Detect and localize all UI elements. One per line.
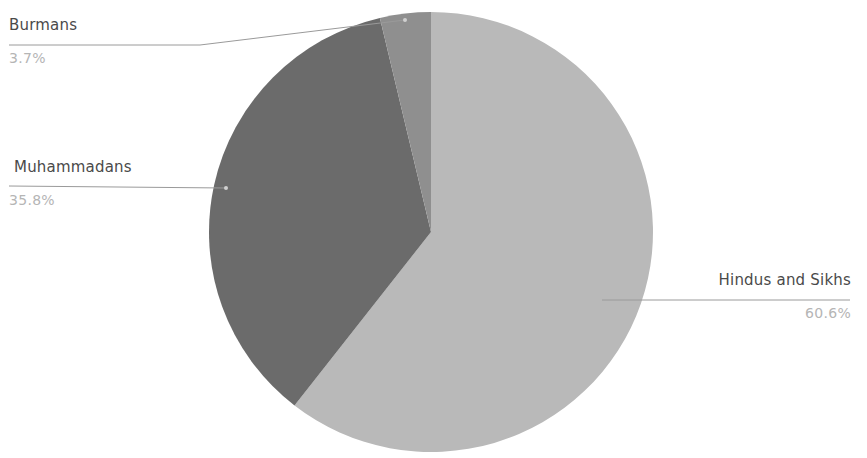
label-muhammadans-name: Muhammadans [14,158,132,176]
pie-chart [0,0,867,458]
leader-burmans-dot [403,18,407,22]
label-burmans-name: Burmans [9,16,77,34]
label-muhammadans-percent: 35.8% [9,192,55,208]
label-hindus-percent: 60.6% [805,305,851,321]
label-hindus-name: Hindus and Sikhs [719,271,851,289]
leader-muhammadans [9,186,226,188]
leader-muhammadans-dot [224,186,228,190]
label-burmans-percent: 3.7% [9,50,46,66]
